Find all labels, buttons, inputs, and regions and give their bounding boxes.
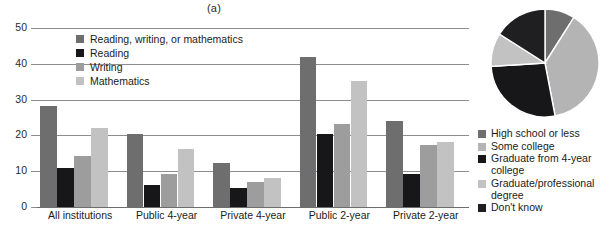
legend-item-label: Don't know (491, 201, 543, 213)
y-tick-label: 10 (1, 165, 27, 176)
bar (351, 81, 368, 207)
legend-item: Reading (76, 47, 243, 60)
legend-item: Don't know (478, 201, 611, 213)
x-axis-label: Private 2-year (383, 209, 469, 221)
legend-item-label: Graduate from 4-year college (491, 152, 611, 176)
bar (91, 128, 108, 207)
legend-item-label: Reading, writing, or mathematics (90, 34, 243, 45)
legend-item: Writing (76, 61, 243, 74)
bar (264, 178, 281, 207)
legend-item: Graduate/professional degree (478, 177, 611, 201)
legend-swatch-icon (76, 49, 84, 57)
legend-item-label: Graduate/professional degree (491, 177, 611, 201)
legend-item-label: Some college (491, 140, 555, 152)
pie-chart: High school or less: 9Some college: 38Gr… (490, 8, 600, 118)
y-tick-label: 40 (1, 58, 27, 69)
bar (386, 121, 403, 207)
legend-swatch-icon (76, 35, 84, 43)
y-tick-label: 0 (1, 201, 27, 212)
pie-svg: High school or less: 9Some college: 38Gr… (490, 8, 600, 118)
legend-item: Graduate from 4-year college (478, 152, 611, 176)
bar (247, 182, 264, 207)
legend-swatch-icon (478, 204, 486, 212)
bar (334, 124, 351, 207)
bar (40, 106, 57, 207)
legend-item: Some college (478, 140, 611, 152)
x-axis-line (37, 207, 469, 208)
bar (437, 142, 454, 207)
x-axis-label: Private 4-year (210, 209, 296, 221)
legend-item-label: Writing (90, 62, 122, 73)
legend-swatch-icon (478, 143, 486, 151)
bar (161, 174, 178, 207)
legend-swatch-icon (478, 180, 486, 188)
panel-a-label: (a) (207, 2, 221, 14)
legend-item-label: High school or less (491, 127, 580, 139)
bar (127, 134, 144, 207)
bar (213, 163, 230, 207)
legend-item: Mathematics (76, 75, 243, 88)
y-tick-label: 20 (1, 129, 27, 140)
legend-item: Reading, writing, or mathematics (76, 33, 243, 46)
panel-a-bar-chart: (a) 01020304050 Percent All institutions… (0, 0, 470, 230)
bar (403, 174, 420, 207)
bar (317, 134, 334, 207)
x-axis-label: Public 2-year (296, 209, 382, 221)
bar (230, 188, 247, 207)
x-axis-label: Public 4-year (123, 209, 209, 221)
x-axis-label: All institutions (37, 209, 123, 221)
legend-swatch-icon (76, 77, 84, 85)
legend-item-label: Mathematics (90, 76, 150, 87)
bar (178, 149, 195, 207)
bar (74, 156, 91, 207)
legend-panel-a: Reading, writing, or mathematicsReadingW… (76, 33, 243, 89)
legend-panel-b: High school or lessSome collegeGraduate … (478, 127, 611, 214)
legend-swatch-icon (76, 63, 84, 71)
y-tick-label: 50 (1, 22, 27, 33)
panel-b-pie-chart: (b) High school or less: 9Some college: … (470, 0, 611, 230)
bar (300, 57, 317, 207)
legend-swatch-icon (478, 130, 486, 138)
legend-item-label: Reading (90, 48, 129, 59)
y-tick-label: 30 (1, 94, 27, 105)
bar (144, 185, 161, 207)
pie-slice: Graduate from 4-year college: 27 (491, 63, 555, 117)
bar (57, 168, 74, 207)
legend-item: High school or less (478, 127, 611, 139)
bar (420, 145, 437, 207)
legend-swatch-icon (478, 155, 486, 163)
figure-root: (a) 01020304050 Percent All institutions… (0, 0, 611, 230)
